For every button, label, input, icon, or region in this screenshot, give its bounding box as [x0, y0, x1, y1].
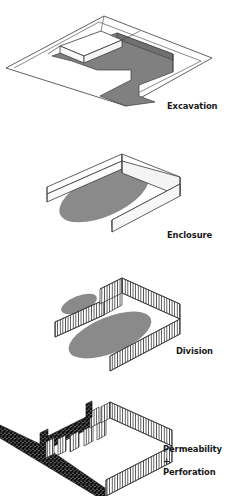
panel-caption-permeability-perforation: Permeability + Perforation	[163, 444, 230, 479]
panel-fragment-8	[86, 401, 92, 420]
panel-division: Division	[0, 252, 230, 380]
diagram-sheet: Excavation Enc	[0, 0, 230, 496]
panel-excavation: Excavation	[0, 0, 230, 124]
panel-caption-enclosure: Enclosure	[167, 230, 212, 242]
panel-caption-division: Division	[176, 346, 213, 358]
panel-permeability-perforation: Permeability + Perforation	[0, 380, 230, 496]
colonnade-back-right	[110, 402, 172, 446]
panel-caption-excavation: Excavation	[167, 101, 217, 113]
division-artwork	[0, 252, 230, 380]
permeability-artwork	[0, 380, 230, 496]
panel-fragment-7	[101, 402, 110, 423]
panel-enclosure: Enclosure	[0, 124, 230, 252]
